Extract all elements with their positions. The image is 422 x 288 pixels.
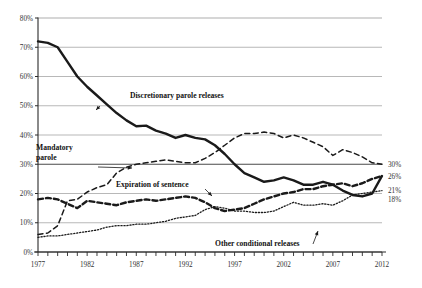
- end-label-21: 21%: [388, 187, 401, 195]
- x-tick-label-1982: 1982: [80, 261, 95, 269]
- y-tick-label-70: 70%: [20, 44, 33, 52]
- line-chart: 0%10%20%30%40%50%60%70%80%19771982198719…: [0, 0, 422, 288]
- annotation-label-expiration: Expiration of sentence: [116, 180, 189, 189]
- y-tick-label-50: 50%: [20, 102, 33, 110]
- end-label-26: 26%: [388, 173, 401, 181]
- x-tick-label-1977: 1977: [31, 261, 46, 269]
- end-label-30: 30%: [388, 161, 401, 169]
- series-line-discretionary-parole-releases: [38, 41, 382, 196]
- annotation-arrow-other-conditional: [315, 231, 319, 236]
- annotation-label-mandatory: Mandatory: [36, 143, 73, 152]
- y-tick-label-40: 40%: [20, 132, 33, 140]
- annotation-label-other-conditional: Other conditional releases: [215, 239, 300, 248]
- y-tick-label-60: 60%: [20, 73, 33, 81]
- y-tick-label-20: 20%: [20, 190, 33, 198]
- chart-container: 0%10%20%30%40%50%60%70%80%19771982198719…: [0, 0, 422, 288]
- x-tick-label-1987: 1987: [129, 261, 144, 269]
- x-tick-label-1997: 1997: [227, 261, 242, 269]
- x-tick-label-1992: 1992: [178, 261, 193, 269]
- y-tick-label-30: 30%: [20, 161, 33, 169]
- y-tick-label-10: 10%: [20, 219, 33, 227]
- x-tick-label-2012: 2012: [375, 261, 390, 269]
- y-tick-label-80: 80%: [20, 15, 33, 23]
- y-tick-label-0: 0%: [23, 249, 33, 257]
- annotation-label-mandatory: parole: [36, 153, 57, 162]
- annotation-label-discretionary: Discretionary parole releases: [130, 91, 224, 100]
- series-line-other-conditional-releases: [38, 191, 382, 238]
- x-tick-label-2007: 2007: [326, 261, 341, 269]
- end-label-18: 18%: [388, 196, 401, 204]
- x-tick-label-2002: 2002: [277, 261, 292, 269]
